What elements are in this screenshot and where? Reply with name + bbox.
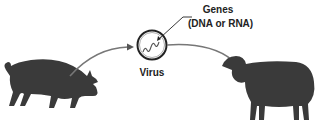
genes-label: Genes	[198, 4, 238, 15]
arrow-virus-to-sheep	[167, 45, 232, 60]
virus-icon	[138, 31, 167, 60]
sheep-icon	[222, 56, 314, 120]
genes-detail-label: (DNA or RNA)	[188, 18, 248, 29]
pig-icon	[4, 59, 98, 108]
virus-label: Virus	[132, 67, 172, 78]
virus-transmission-diagram: Genes (DNA or RNA) Virus	[0, 0, 321, 134]
